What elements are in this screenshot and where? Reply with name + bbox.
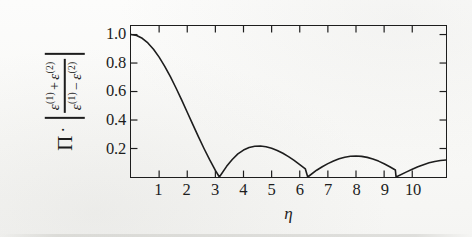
- x-tick-label: 5: [267, 180, 275, 200]
- y-tick-label: 0.2: [90, 139, 126, 159]
- fraction-denominator: ε(1)−ε(2): [67, 58, 85, 113]
- scan-edge-artifact: [0, 234, 472, 237]
- fraction-numerator: ε(1)+ε(2): [45, 58, 63, 113]
- y-tick-label: 1.0: [90, 24, 126, 44]
- y-tick-label: 0.6: [90, 81, 126, 101]
- x-tick-label: 1: [154, 180, 162, 200]
- data-series-sinc-curve: [131, 35, 446, 177]
- x-tick-label: 8: [352, 180, 360, 200]
- tick-marks: [131, 26, 446, 177]
- x-axis-tick-labels: 12345678910: [130, 180, 447, 204]
- figure-root: Π · ε(1)+ε(2) ε(1)−ε(2) 0.20.40.60.81.0 …: [0, 0, 472, 237]
- y-axis-tick-labels: 0.20.40.60.81.0: [86, 25, 126, 178]
- pi-symbol: Π: [54, 135, 75, 150]
- y-tick-label: 0.4: [90, 110, 126, 130]
- dot-operator: ·: [54, 126, 74, 132]
- plot-canvas: [131, 26, 446, 177]
- x-tick-label: 3: [211, 180, 219, 200]
- epsilon-2-denominator-superscript: (2): [67, 61, 77, 73]
- y-tick-label: 0.8: [90, 53, 126, 73]
- x-tick-label: 7: [324, 180, 332, 200]
- x-tick-label: 9: [381, 180, 389, 200]
- epsilon-2-numerator: ε: [46, 73, 62, 79]
- denominator-operator: −: [69, 82, 84, 90]
- x-axis-title: η: [130, 204, 447, 224]
- x-tick-label: 2: [183, 180, 191, 200]
- epsilon-2-numerator-superscript: (2): [45, 61, 55, 73]
- epsilon-1-numerator: ε: [46, 104, 62, 110]
- epsilon-1-denominator: ε: [68, 104, 84, 110]
- x-tick-label: 6: [296, 180, 304, 200]
- x-tick-label: 4: [239, 180, 247, 200]
- plot-frame: [130, 25, 447, 178]
- epsilon-1-numerator-superscript: (1): [45, 92, 55, 104]
- absolute-value-bar-left: [45, 117, 85, 118]
- numerator-operator: +: [47, 82, 62, 90]
- fraction-rule: [64, 58, 65, 113]
- y-axis-label-content: Π · ε(1)+ε(2) ε(1)−ε(2): [45, 49, 85, 151]
- fraction: ε(1)+ε(2) ε(1)−ε(2): [45, 58, 85, 113]
- epsilon-1-denominator-superscript: (1): [67, 92, 77, 104]
- absolute-value-bar-right: [45, 53, 85, 54]
- x-tick-label: 10: [405, 180, 421, 200]
- epsilon-2-denominator: ε: [68, 73, 84, 79]
